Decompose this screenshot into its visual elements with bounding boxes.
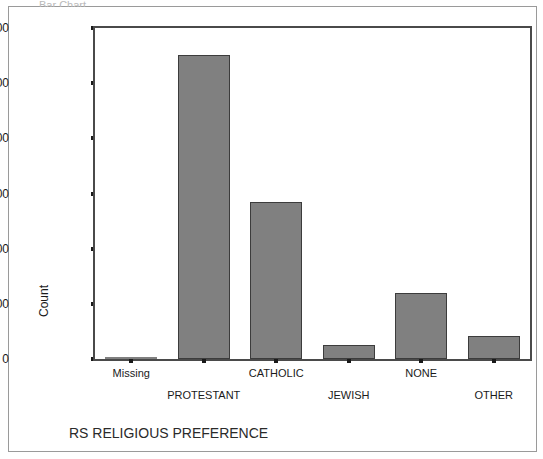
bar-other [468,336,520,359]
x-tick-label: NONE [405,367,437,379]
x-tick-mark [347,359,351,363]
y-tick-label: 0 [0,352,9,366]
x-tick-mark [202,359,206,363]
x-tick-mark [492,359,496,363]
y-tick-label: 400 [0,242,9,256]
x-axis-title: RS RELIGIOUS PREFERENCE [69,425,489,441]
bar-jewish [323,345,375,359]
x-tick-label: Missing [113,367,150,379]
bar-catholic [250,202,302,359]
y-tick-label: 800 [0,131,9,145]
x-tick-mark [129,359,133,363]
y-tick-label: 200 [0,297,9,311]
x-tick-label: JEWISH [328,389,370,401]
x-tick-mark [419,359,423,363]
x-tick-label: CATHOLIC [249,367,304,379]
x-tick-label: OTHER [475,389,514,401]
y-axis: 020040060080010001200 [9,7,93,380]
y-tick-label: 1000 [0,76,9,90]
cropped-window-title: Bar Chart [39,0,199,7]
x-axis-tick-labels: MissingPROTESTANTCATHOLICJEWISHNONEOTHER [95,365,530,411]
chart-window: Bar Chart 020040060080010001200 Count Mi… [8,6,537,452]
bars-layer [95,28,530,359]
x-tick-mark [274,359,278,363]
x-tick-label: PROTESTANT [167,389,240,401]
y-tick-label: 1200 [0,21,9,35]
bar-protestant [178,55,230,359]
y-axis-title: Count [37,261,51,341]
bar-none [395,293,447,359]
y-tick-label: 600 [0,187,9,201]
